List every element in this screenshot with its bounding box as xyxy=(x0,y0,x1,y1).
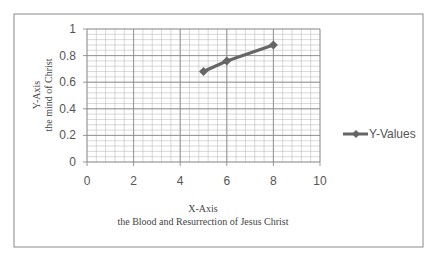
y-tick-label: 1 xyxy=(69,22,76,36)
x-tick-label: 10 xyxy=(313,174,327,188)
y-axis-title-line1: Y-Axis xyxy=(31,81,42,109)
x-tick-label: 6 xyxy=(223,174,230,188)
legend-label: Y-Values xyxy=(369,127,416,141)
y-tick-label: 0.4 xyxy=(59,102,76,116)
x-axis-title-line2: the Blood and Resurrection of Jesus Chri… xyxy=(117,216,288,227)
y-tick-label: 0.2 xyxy=(59,128,76,142)
y-tick-label: 0.8 xyxy=(59,49,76,63)
y-tick-label: 0.6 xyxy=(59,75,76,89)
x-tick-label: 8 xyxy=(270,174,277,188)
x-tick-label: 2 xyxy=(130,174,137,188)
x-axis-title-line1: X-Axis xyxy=(188,203,218,214)
y-tick-label: 0 xyxy=(69,155,76,169)
x-tick-label: 4 xyxy=(177,174,184,188)
y-axis-title-line2: the mind of Christ xyxy=(43,58,54,131)
chart: 024681000.20.40.60.81 Y-Axis the mind of… xyxy=(0,0,438,264)
x-tick-label: 0 xyxy=(84,174,91,188)
